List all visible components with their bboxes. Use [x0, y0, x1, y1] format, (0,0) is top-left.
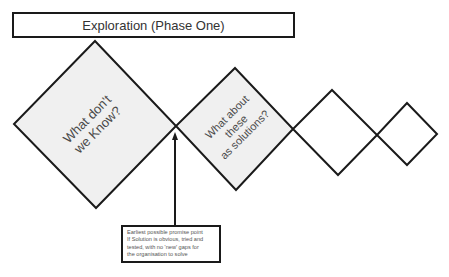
note-line-1: Earliest possible promise point: [127, 229, 219, 236]
note-line-3: tested, with no 'new' gaps for: [127, 244, 219, 251]
arrow-head-icon: [172, 132, 178, 140]
phase-title: Exploration (Phase One): [12, 12, 295, 38]
promise-point-note: Earliest possible promise point If Solut…: [121, 225, 221, 263]
diamond-4: [377, 103, 437, 165]
phase-title-text: Exploration (Phase One): [82, 18, 224, 33]
note-line-2: If Solution is obvious, tried and: [127, 236, 219, 243]
note-line-4: the organisation to solve: [127, 251, 219, 258]
diamond-3: [293, 90, 377, 175]
